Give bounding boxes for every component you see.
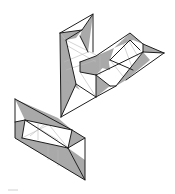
diagram-canvas [0, 0, 175, 194]
upper-folded-shape [60, 14, 164, 117]
lower-folded-shape [15, 99, 85, 180]
